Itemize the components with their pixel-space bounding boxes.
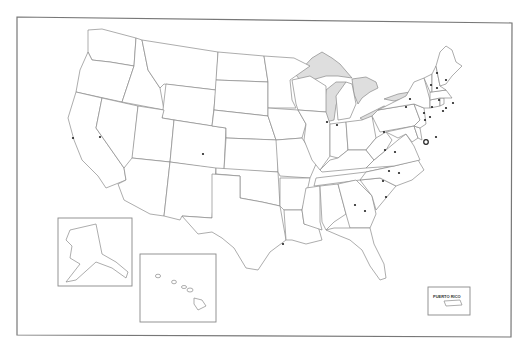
city-dot	[423, 112, 425, 114]
city-dot	[438, 99, 440, 101]
city-dot	[364, 210, 366, 212]
city-dot	[424, 119, 426, 121]
city-dot	[394, 151, 396, 153]
city-dot	[409, 98, 411, 100]
city-dot	[385, 196, 387, 198]
city-dot	[99, 136, 101, 138]
city-dot	[430, 84, 432, 86]
city-dot	[282, 243, 284, 245]
city-dot	[202, 153, 204, 155]
city-dot	[429, 116, 431, 118]
state-mississippi	[302, 186, 322, 230]
state-new-mexico	[164, 162, 216, 220]
city-dot	[445, 79, 447, 81]
city-dot	[388, 170, 390, 172]
state-arizona	[118, 158, 170, 216]
state-wisconsin	[292, 76, 326, 112]
city-dot	[435, 136, 437, 138]
city-dot	[405, 106, 407, 108]
city-dot	[336, 124, 338, 126]
city-dot	[383, 131, 385, 133]
state-colorado	[170, 120, 226, 170]
city-dot	[436, 87, 438, 89]
puerto-rico-label: PUERTO RICO	[433, 294, 461, 299]
city-dot	[384, 149, 386, 151]
inset-alaska	[58, 218, 132, 286]
state-kansas	[224, 138, 278, 172]
city-dot	[431, 106, 433, 108]
state-rhode-island	[440, 98, 444, 106]
state-maine	[436, 46, 462, 86]
city-dot	[326, 121, 328, 123]
city-dot	[445, 107, 447, 109]
lake-huron	[352, 77, 378, 104]
state-north-dakota	[216, 52, 268, 82]
capital-marker	[424, 140, 429, 145]
inset-puerto-rico: PUERTO RICO	[428, 287, 470, 315]
city-dot	[382, 180, 384, 182]
us-map: PUERTO RICO	[0, 0, 529, 351]
city-dot	[72, 137, 74, 139]
city-dot	[436, 72, 438, 74]
inset-hawaii	[140, 254, 216, 322]
city-dot	[354, 204, 356, 206]
state-florida	[326, 228, 386, 280]
city-dot	[452, 102, 454, 104]
city-dot	[398, 172, 400, 174]
city-dot	[442, 110, 444, 112]
